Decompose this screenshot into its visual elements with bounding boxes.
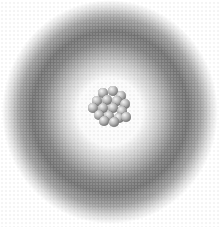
atom-cluster <box>0 0 221 227</box>
scene <box>0 0 221 227</box>
atom-sphere <box>121 112 131 122</box>
atom-sphere <box>99 116 109 126</box>
atom-sphere <box>109 117 119 127</box>
